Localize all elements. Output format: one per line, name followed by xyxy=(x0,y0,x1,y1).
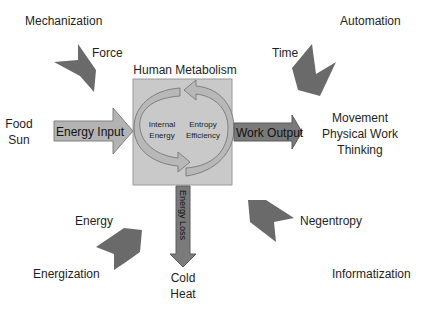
output-physical-work: Physical Work xyxy=(310,126,410,142)
negentropy-chevron-icon xyxy=(248,200,294,242)
entropy-efficiency-label-2: Efficiency xyxy=(186,131,220,140)
energy-chevron-icon xyxy=(96,228,142,270)
entropy-efficiency-label-1: Entropy xyxy=(189,120,217,129)
internal-energy-label-1: Internal xyxy=(149,120,176,129)
input-food: Food xyxy=(4,116,34,132)
work-output-label: Work Output xyxy=(236,126,304,140)
energy-label: Energy xyxy=(75,213,113,229)
energy-input-label: Energy Input xyxy=(56,125,125,139)
energy-loss-label: Energy Loss xyxy=(178,190,188,241)
output-movement: Movement xyxy=(310,110,410,126)
metabolism-diagram: Energy Input Work Output Energy Loss Int… xyxy=(0,0,427,316)
output-thinking: Thinking xyxy=(310,142,410,158)
force-chevron-icon xyxy=(54,44,96,92)
negentropy-label: Negentropy xyxy=(300,213,362,229)
output-cold: Cold xyxy=(163,270,203,286)
region-mechanization: Mechanization xyxy=(25,13,102,29)
diagram-title: Human Metabolism xyxy=(130,62,240,78)
internal-energy-label-2: Energy xyxy=(149,131,174,140)
region-energization: Energization xyxy=(33,266,100,282)
region-informatization: Informatization xyxy=(332,266,411,282)
force-label: Force xyxy=(92,45,123,61)
output-heat: Heat xyxy=(163,286,203,302)
time-label: Time xyxy=(272,45,298,61)
input-sun: Sun xyxy=(4,132,34,148)
region-automation: Automation xyxy=(340,13,401,29)
time-chevron-icon xyxy=(292,44,336,96)
